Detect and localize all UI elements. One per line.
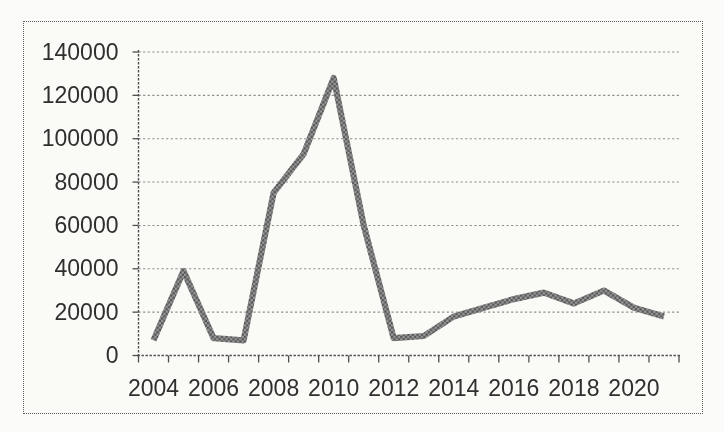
x-axis-label: 2006 [188, 375, 239, 401]
x-axis-label: 2016 [488, 375, 539, 401]
x-axis-label: 2020 [608, 375, 659, 401]
y-axis-label: 20000 [55, 299, 119, 325]
y-axis-label: 120000 [42, 82, 119, 108]
x-axis-label: 2004 [128, 375, 179, 401]
x-axis-label: 2018 [548, 375, 599, 401]
y-axis-label: 140000 [42, 39, 119, 65]
x-axis-label: 2008 [248, 375, 299, 401]
gridlines [139, 52, 680, 312]
axes [138, 50, 681, 357]
x-axis-label: 2012 [368, 375, 419, 401]
y-axis-label: 0 [106, 342, 119, 368]
x-axis-label: 2014 [428, 375, 479, 401]
y-axis-labels: 020000400006000080000100000120000140000 [42, 39, 119, 369]
line-chart: 020000400006000080000100000120000140000 … [0, 0, 724, 432]
data-series-line [154, 78, 665, 340]
x-axis-label: 2010 [308, 375, 359, 401]
data-series [154, 78, 665, 340]
y-axis-label: 40000 [55, 255, 119, 281]
axis-ticks [133, 52, 680, 363]
x-axis-labels: 200420062008201020122014201620182020 [128, 375, 660, 401]
y-axis-label: 60000 [55, 212, 119, 238]
scanned-line-chart-page: 020000400006000080000100000120000140000 … [0, 0, 724, 432]
y-axis-label: 80000 [55, 169, 119, 195]
y-axis-label: 100000 [42, 125, 119, 151]
